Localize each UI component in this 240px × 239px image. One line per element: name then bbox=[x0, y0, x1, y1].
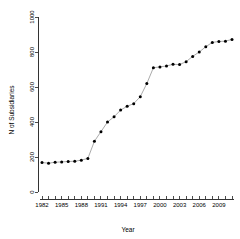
data-point bbox=[86, 157, 89, 160]
data-point bbox=[47, 162, 50, 165]
x-tick-label: 1988 bbox=[75, 202, 89, 208]
data-point bbox=[172, 63, 175, 66]
x-axis-title: Year bbox=[121, 226, 135, 233]
data-point bbox=[80, 159, 83, 162]
y-tick-label: 200 bbox=[29, 151, 35, 162]
data-point bbox=[185, 60, 188, 63]
chart-container: 02004006008001000 1982198519881991199419… bbox=[0, 0, 240, 239]
y-tick-label: 800 bbox=[29, 46, 35, 57]
data-point bbox=[217, 40, 220, 43]
data-point bbox=[145, 82, 148, 85]
y-axis-title: N of Subsidiaries bbox=[8, 85, 15, 135]
data-point bbox=[60, 160, 63, 163]
scatter-plot: 02004006008001000 1982198519881991199419… bbox=[0, 0, 240, 239]
data-point bbox=[99, 130, 102, 133]
y-axis: 02004006008001000 bbox=[29, 10, 38, 194]
x-tick-label: 2003 bbox=[173, 202, 187, 208]
x-tick-label: 1997 bbox=[134, 202, 148, 208]
data-point bbox=[113, 115, 116, 118]
y-tick-label: 1000 bbox=[29, 10, 35, 24]
x-tick-label: 1994 bbox=[114, 202, 128, 208]
data-point bbox=[158, 65, 161, 68]
data-point bbox=[152, 66, 155, 69]
data-point bbox=[165, 65, 168, 68]
y-tick-label: 600 bbox=[29, 81, 35, 92]
data-point bbox=[106, 121, 109, 124]
data-point bbox=[126, 105, 129, 108]
x-tick-label: 1982 bbox=[35, 202, 49, 208]
data-point bbox=[132, 102, 135, 105]
data-point bbox=[139, 95, 142, 98]
data-point bbox=[178, 63, 181, 66]
data-point bbox=[54, 161, 57, 164]
data-point bbox=[211, 41, 214, 44]
data-point bbox=[224, 40, 227, 43]
data-point bbox=[93, 140, 96, 143]
data-point bbox=[204, 45, 207, 48]
x-tick-label: 2006 bbox=[193, 202, 207, 208]
data-point bbox=[67, 160, 70, 163]
data-point bbox=[231, 38, 234, 41]
x-tick-label: 2000 bbox=[153, 202, 167, 208]
data-point bbox=[191, 55, 194, 58]
data-point bbox=[198, 51, 201, 54]
x-tick-label: 2009 bbox=[212, 202, 226, 208]
x-tick-label: 1985 bbox=[55, 202, 69, 208]
data-point bbox=[73, 160, 76, 163]
data-series bbox=[41, 38, 234, 165]
y-tick-label: 0 bbox=[29, 190, 35, 194]
x-axis: 1982198519881991199419972000200320062009 bbox=[35, 196, 234, 208]
y-tick-label: 400 bbox=[29, 116, 35, 127]
data-point bbox=[41, 161, 44, 164]
x-tick-label: 1991 bbox=[94, 202, 108, 208]
data-point bbox=[119, 109, 122, 112]
